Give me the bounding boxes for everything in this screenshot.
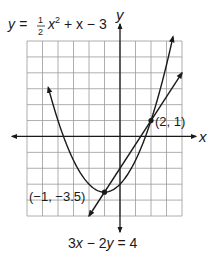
line-equation: 3x − 2y = 4: [68, 235, 138, 251]
chart: y = 1 2 x2 + x − 3 y x (2, 1) (−1, −3.5)…: [0, 0, 220, 267]
y-axis-label: y: [115, 6, 125, 23]
point-label-2-1: (2, 1): [155, 114, 185, 129]
x-axis-label: x: [198, 128, 207, 145]
parabola-equation-rest: x2 + x − 3: [47, 15, 107, 32]
parabola-equation: y =: [7, 16, 27, 32]
point-label-neg1-neg3.5: (−1, −3.5): [29, 189, 85, 204]
parabola-frac-den: 2: [38, 27, 43, 37]
parabola-frac-num: 1: [38, 15, 43, 25]
intersection-point: [148, 118, 153, 123]
intersection-point: [102, 190, 107, 195]
